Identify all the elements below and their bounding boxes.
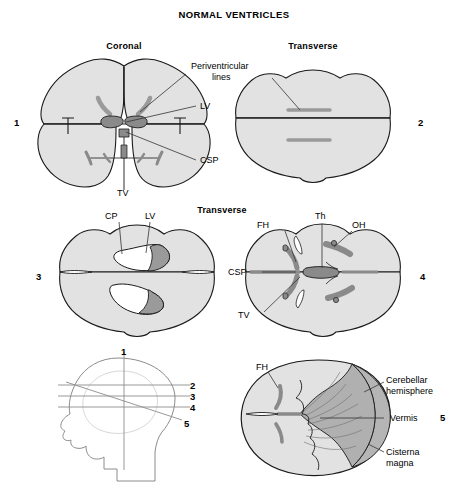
normal-ventricles-diagram: NORMAL VENTRICLES Coronal Transverse Tra… xyxy=(0,0,468,498)
label-csp-p1: CSP xyxy=(200,155,219,165)
occipital-horn-lower-dot-p4 xyxy=(333,297,338,302)
lateral-ventricle-left-p1 xyxy=(101,116,123,128)
midline-slit-right-p3 xyxy=(182,271,214,274)
label-csp-p4: CSP xyxy=(228,267,247,277)
figure-root: NORMAL VENTRICLES Coronal Transverse Tra… xyxy=(0,0,468,498)
label-cp-p3: CP xyxy=(105,211,118,221)
figure-title: NORMAL VENTRICLES xyxy=(178,9,289,20)
label-th-p4: Th xyxy=(315,211,326,221)
head-profile-outline xyxy=(61,358,175,481)
label-lv-p1: LV xyxy=(200,101,210,111)
panel-number-3: 3 xyxy=(36,271,41,282)
heading-coronal: Coronal xyxy=(106,41,141,51)
panel-number-4: 4 xyxy=(420,271,426,282)
thalamus-p4 xyxy=(303,267,339,279)
panel-1-coronal: Periventricular lines LV CSP TV 1 xyxy=(14,59,249,198)
plane-marker-4: 4 xyxy=(190,402,196,413)
midline-slit-left-p5 xyxy=(246,413,278,416)
third-ventricle-p1 xyxy=(121,145,127,158)
label-fh-p5: FH xyxy=(256,362,268,372)
panel-5-posterior-fossa: FH Cerebellar hemisphere Vermis Cisterna… xyxy=(241,360,446,476)
plane-marker-5: 5 xyxy=(184,418,190,429)
midline-slit-left-p3 xyxy=(60,271,92,274)
heading-transverse-top: Transverse xyxy=(288,41,338,51)
panel-4-transverse: FH Th OH CSP TV 4 xyxy=(228,211,426,337)
label-oh-p4: OH xyxy=(352,220,366,230)
label-cisterna-magna-l1-p5: Cisterna xyxy=(386,447,420,457)
plane-marker-1: 1 xyxy=(121,346,127,357)
label-tv-p4: TV xyxy=(238,310,250,320)
panel-number-2: 2 xyxy=(418,117,423,128)
occipital-horn-upper-dot-p4 xyxy=(331,240,336,245)
plane-marker-2: 2 xyxy=(190,380,195,391)
brain-outline-p4-upper xyxy=(246,224,401,272)
panel-2-transverse: 2 xyxy=(236,70,424,183)
label-lv-p3: LV xyxy=(145,211,155,221)
panel-3-transverse: CP LV 3 xyxy=(36,211,214,337)
label-cerebellar-hemisphere-l1-p5: Cerebellar xyxy=(386,375,428,385)
frontal-horn-lower-tip-p4 xyxy=(283,293,288,299)
label-fh-p4: FH xyxy=(257,220,269,230)
heading-transverse-mid: Transverse xyxy=(197,205,247,215)
brain-outline-p4-lower xyxy=(246,272,401,337)
label-periventricular-lines-l2-p1: lines xyxy=(212,72,231,82)
panel-number-5: 5 xyxy=(440,412,446,423)
brain-outline-p2-lower xyxy=(236,118,391,183)
label-tv-p1: TV xyxy=(117,188,129,198)
label-cerebellar-hemisphere-l2-p5: hemisphere xyxy=(386,386,433,396)
frontal-horn-upper-tip-p4 xyxy=(283,245,288,251)
panel-number-1: 1 xyxy=(14,117,20,128)
scan-plane-reference-head: 1 2 3 4 5 xyxy=(58,346,196,481)
label-periventricular-lines-l1-p1: Periventricular xyxy=(191,61,249,71)
plane-marker-3: 3 xyxy=(190,391,195,402)
label-cisterna-magna-l2-p5: magna xyxy=(386,458,414,468)
label-vermis-p5: Vermis xyxy=(390,413,418,423)
